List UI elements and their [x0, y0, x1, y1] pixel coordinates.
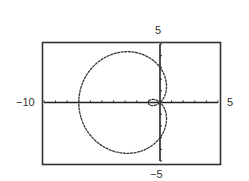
y-max-label: 5: [155, 25, 161, 36]
x-max-label: 5: [227, 97, 233, 108]
polar-plot: [0, 0, 249, 181]
x-min-label: −10: [16, 97, 35, 108]
plot-frame: [43, 43, 221, 165]
axes: [44, 44, 218, 161]
y-min-label: −5: [150, 169, 163, 180]
